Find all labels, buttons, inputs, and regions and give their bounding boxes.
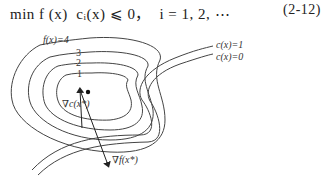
label-f4: f(x)=4 — [43, 34, 69, 46]
label-c0: c(x)=0 — [216, 51, 243, 63]
contour-f1 — [57, 73, 132, 120]
label-grad-c: ∇c(x*) — [62, 98, 90, 110]
label-f2: 2 — [76, 57, 81, 68]
label-grad-f: ∇f(x*) — [112, 154, 139, 166]
label-c1: c(x)=1 — [216, 39, 243, 51]
optimal-point — [86, 90, 90, 94]
label-f1: 1 — [77, 68, 82, 79]
textbook-page: min f (x) cᵢ(x) ⩽ 0， i = 1, 2, ⋯ (2-12) — [0, 0, 329, 177]
contour-figure: f(x)=4 3 2 1 c(x)=1 c(x)=0 ∇c(x*) ∇f(x*) — [0, 0, 329, 177]
contour-f3 — [28, 52, 153, 140]
